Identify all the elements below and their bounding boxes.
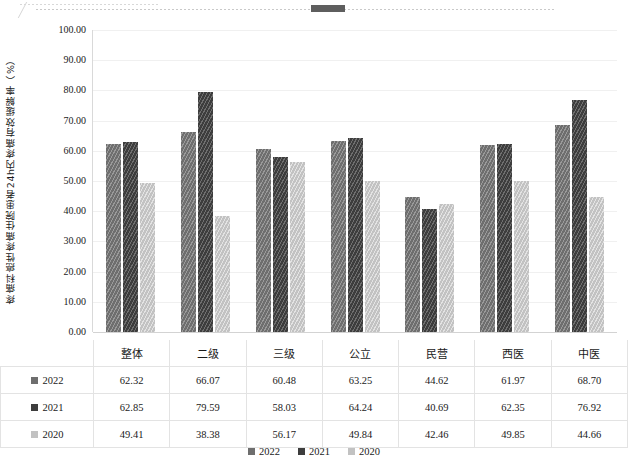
y-tick-label: 90.00 — [64, 55, 87, 65]
table-cell: 40.69 — [399, 394, 475, 421]
chart-legend: 202220212020 — [0, 446, 628, 456]
table-cell: 58.03 — [246, 394, 322, 421]
table-row: 202162.8579.5958.0364.2440.6962.3576.92 — [1, 394, 628, 421]
legend-label: 2021 — [309, 446, 330, 456]
series-swatch-icon — [31, 431, 38, 438]
table-cell: 49.85 — [475, 421, 551, 448]
table-row-label-text: 2021 — [43, 402, 64, 413]
bar-group — [318, 30, 393, 332]
bar-2022[interactable] — [405, 197, 420, 332]
table-row: 202049.4138.3856.1749.8442.4649.8544.66 — [1, 421, 628, 448]
table-cell: 62.35 — [475, 394, 551, 421]
bar-2020[interactable] — [439, 204, 454, 332]
y-axis-title: 疼痛科癌性疼痛住院患者24h内疼痛有效缓解率（%） — [2, 36, 20, 322]
legend-item-2020[interactable]: 2020 — [348, 446, 380, 456]
bar-2022[interactable] — [331, 141, 346, 332]
bar-2021[interactable] — [273, 157, 288, 332]
bar-2020[interactable] — [215, 216, 230, 332]
table-category-header: 西医 — [475, 340, 551, 367]
bar-group — [168, 30, 243, 332]
table-category-header: 整体 — [94, 340, 170, 367]
table-cell: 66.07 — [170, 367, 246, 394]
table-cell: 76.92 — [551, 394, 627, 421]
y-tick-label: 20.00 — [64, 267, 87, 277]
bar-group — [542, 30, 617, 332]
bar-2021[interactable] — [572, 100, 587, 332]
legend-item-2022[interactable]: 2022 — [248, 446, 280, 456]
y-tick-label: 10.00 — [64, 297, 87, 307]
bar-2021[interactable] — [497, 144, 512, 332]
table-cell: 64.24 — [322, 394, 398, 421]
bar-2021[interactable] — [348, 138, 363, 332]
table-category-header: 民营 — [399, 340, 475, 367]
table-cell: 49.84 — [322, 421, 398, 448]
table-cell: 60.48 — [246, 367, 322, 394]
table-cell: 49.41 — [94, 421, 170, 448]
table-cell: 79.59 — [170, 394, 246, 421]
series-swatch-icon — [31, 377, 38, 384]
bar-group — [93, 30, 168, 332]
series-swatch-icon — [31, 404, 38, 411]
bar-2020[interactable] — [365, 181, 380, 332]
bar-2022[interactable] — [181, 132, 196, 332]
plot-container: 疼痛科癌性疼痛住院患者24h内疼痛有效缓解率（%） 100.0090.0080.… — [0, 22, 628, 340]
bar-group — [243, 30, 318, 332]
y-axis-tick-labels: 100.0090.0080.0070.0060.0050.0040.0030.0… — [24, 22, 90, 340]
top-artifact-strip — [0, 0, 628, 22]
bar-group — [467, 30, 542, 332]
y-tick-label: 0.00 — [69, 327, 87, 337]
table-row-label-text: 2020 — [43, 429, 64, 440]
bar-2020[interactable] — [589, 197, 604, 332]
table-row-label-2020: 2020 — [1, 421, 94, 448]
legend-key-icon — [348, 448, 355, 455]
axis-baseline — [93, 332, 617, 333]
bar-2022[interactable] — [480, 145, 495, 332]
table-cell: 44.62 — [399, 367, 475, 394]
table-row: 202262.3266.0760.4863.2544.6261.9768.70 — [1, 367, 628, 394]
bar-2020[interactable] — [140, 183, 155, 332]
bar-2021[interactable] — [198, 92, 213, 332]
table-row-label-2022: 2022 — [1, 367, 94, 394]
table-cell: 38.38 — [170, 421, 246, 448]
table-category-header: 中医 — [551, 340, 627, 367]
legend-key-icon — [298, 448, 305, 455]
y-tick-label: 80.00 — [64, 85, 87, 95]
y-tick-label: 70.00 — [64, 116, 87, 126]
table-cell: 68.70 — [551, 367, 627, 394]
y-tick-label: 100.00 — [59, 25, 87, 35]
bar-group — [392, 30, 467, 332]
artifact-dotted-line-long — [36, 9, 556, 10]
bar-2021[interactable] — [123, 142, 138, 332]
artifact-dotted-line-short — [20, 4, 160, 5]
bar-2022[interactable] — [555, 125, 570, 332]
bar-chart: 疼痛科癌性疼痛住院患者24h内疼痛有效缓解率（%） 100.0090.0080.… — [0, 22, 628, 456]
artifact-dark-stub — [311, 5, 345, 12]
table-cell: 63.25 — [322, 367, 398, 394]
table-cell: 56.17 — [246, 421, 322, 448]
y-tick-label: 50.00 — [64, 176, 87, 186]
table-cell: 44.66 — [551, 421, 627, 448]
bar-2021[interactable] — [422, 209, 437, 332]
plot-area — [92, 30, 617, 332]
table-corner-cell — [1, 340, 94, 367]
y-tick-label: 30.00 — [64, 236, 87, 246]
bar-2020[interactable] — [290, 162, 305, 332]
legend-key-icon — [248, 448, 255, 455]
table-row-label-2021: 2021 — [1, 394, 94, 421]
table-category-header: 二级 — [170, 340, 246, 367]
bar-2022[interactable] — [256, 149, 271, 332]
bar-groups — [93, 30, 617, 332]
table-category-header: 公立 — [322, 340, 398, 367]
y-tick-label: 60.00 — [64, 146, 87, 156]
table-category-header: 三级 — [246, 340, 322, 367]
bar-2020[interactable] — [514, 181, 529, 332]
data-table: 整体二级三级公立民营西医中医202262.3266.0760.4863.2544… — [0, 340, 628, 448]
table-header-row: 整体二级三级公立民营西医中医 — [1, 340, 628, 367]
legend-label: 2020 — [359, 446, 380, 456]
y-tick-label: 40.00 — [64, 206, 87, 216]
table-cell: 61.97 — [475, 367, 551, 394]
table-cell: 62.32 — [94, 367, 170, 394]
y-axis-title-text: 疼痛科癌性疼痛住院患者24h内疼痛有效缓解率（%） — [4, 54, 18, 304]
bar-2022[interactable] — [106, 144, 121, 332]
legend-item-2021[interactable]: 2021 — [298, 446, 330, 456]
